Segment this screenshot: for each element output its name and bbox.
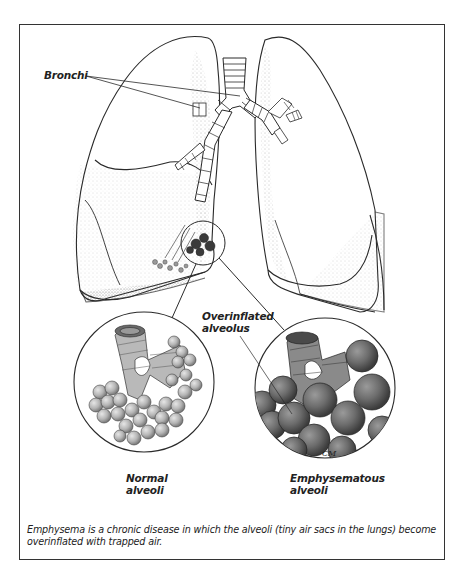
normal-label-line1: Normal — [126, 472, 168, 484]
artist-signature: CM — [322, 449, 337, 458]
figure-caption: Emphysema is a chronic disease in which … — [27, 524, 437, 548]
normal-alveoli-circle — [74, 312, 214, 452]
bronchi-label: Bronchi — [44, 69, 88, 81]
emphysematous-label-line2: alveoli — [290, 484, 385, 496]
normal-label-line2: alveoli — [126, 484, 168, 496]
right-lung — [255, 37, 384, 312]
overinflated-label-line1: Overinflated — [202, 310, 274, 322]
normal-alveoli-label: Normal alveoli — [126, 472, 168, 496]
overinflated-alveolus-label: Overinflated alveolus — [202, 310, 274, 334]
emphysematous-alveoli-label: Emphysematous alveoli — [290, 472, 385, 496]
bronchi-leader-lines — [86, 76, 240, 108]
emphysematous-label-line1: Emphysematous — [290, 472, 385, 484]
lung-illustration: CM — [0, 0, 464, 577]
overinflated-label-line2: alveolus — [202, 322, 274, 334]
emphysematous-alveoli-circle: CM — [248, 318, 396, 464]
